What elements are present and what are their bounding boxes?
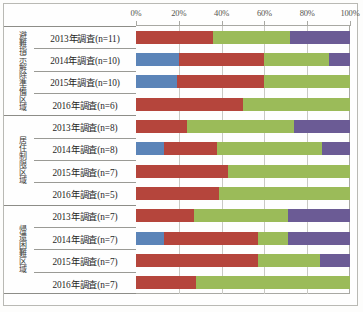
plot-area — [136, 26, 350, 294]
bar-segment-series-1 — [136, 142, 164, 155]
bar-segment-series-3 — [264, 53, 328, 66]
row-label: 2014年調査(n=8) — [34, 139, 136, 161]
x-axis-tick-mark — [179, 21, 180, 26]
bar-segment-series-2 — [136, 276, 196, 289]
group-title-text: 帰還困難区域 — [17, 225, 25, 273]
bar-segment-series-3 — [228, 165, 350, 178]
bar-segment-series-3 — [264, 75, 350, 88]
bar-segment-series-3 — [187, 120, 294, 133]
bar-segment-series-4 — [329, 53, 350, 66]
bar-row — [136, 209, 350, 222]
x-axis-tick-label: 40% — [214, 8, 229, 18]
bar-row — [136, 254, 350, 267]
bar-row — [136, 187, 350, 200]
group-title: 居住制限区域 — [8, 116, 34, 204]
row-label: 2016年調査(n=7) — [34, 273, 136, 295]
row-label: 2016年調査(n=5) — [34, 183, 136, 205]
label-group-1: 避難指示解除準備区域2013年調査(n=11)2014年調査(n=10)2015… — [4, 26, 136, 115]
bar-row — [136, 142, 350, 155]
bar-segment-series-2 — [136, 187, 219, 200]
x-axis-tick-mark — [136, 21, 137, 26]
bar-segment-series-4 — [288, 232, 350, 245]
bar-segment-series-3 — [217, 142, 322, 155]
row-label: 2016年調査(n=6) — [34, 94, 136, 116]
bar-segment-series-2 — [136, 120, 187, 133]
bar-segment-series-4 — [294, 120, 350, 133]
bar-segment-series-2 — [164, 232, 258, 245]
bar-segment-series-3 — [194, 209, 288, 222]
bar-segment-series-3 — [258, 232, 288, 245]
bar-row — [136, 120, 350, 133]
label-group-2: 居住制限区域2013年調査(n=8)2014年調査(n=8)2015年調査(n=… — [4, 115, 136, 204]
bar-row — [136, 165, 350, 178]
bar-segment-series-3 — [196, 276, 350, 289]
x-axis-tick-mark — [307, 21, 308, 26]
bar-segment-series-4 — [290, 31, 350, 44]
group-title: 帰還困難区域 — [8, 206, 34, 293]
row-label: 2015年調査(n=10) — [34, 72, 136, 94]
bar-segment-series-2 — [136, 31, 213, 44]
bar-row — [136, 53, 350, 66]
bar-segment-series-2 — [177, 75, 265, 88]
row-label: 2015年調査(n=7) — [34, 250, 136, 272]
row-label: 2013年調査(n=8) — [34, 116, 136, 138]
bar-row — [136, 276, 350, 289]
x-axis-tick-label: 0% — [131, 8, 142, 18]
bar-segment-series-2 — [164, 142, 218, 155]
x-axis-tick-label: 20% — [171, 8, 186, 18]
group-row-labels: 2013年調査(n=7)2014年調査(n=7)2015年調査(n=7)2016… — [34, 206, 136, 293]
bar-segment-series-1 — [136, 75, 177, 88]
bar-segment-series-4 — [322, 142, 350, 155]
row-label-column: 避難指示解除準備区域2013年調査(n=11)2014年調査(n=10)2015… — [4, 26, 136, 294]
label-group-3: 帰還困難区域2013年調査(n=7)2014年調査(n=7)2015年調査(n=… — [4, 205, 136, 294]
x-axis-tick-label: 100% — [340, 8, 359, 18]
row-label: 2013年調査(n=7) — [34, 206, 136, 228]
row-label: 2014年調査(n=10) — [34, 49, 136, 71]
bar-segment-series-4 — [320, 254, 350, 267]
row-label: 2014年調査(n=7) — [34, 228, 136, 250]
bar-segment-series-2 — [136, 165, 228, 178]
row-label: 2015年調査(n=7) — [34, 161, 136, 183]
x-axis-tick-label: 60% — [257, 8, 272, 18]
bar-row — [136, 232, 350, 245]
group-row-labels: 2013年調査(n=11)2014年調査(n=10)2015年調査(n=10)2… — [34, 27, 136, 115]
bar-segment-series-1 — [136, 53, 179, 66]
bar-segment-series-2 — [179, 53, 265, 66]
group-row-labels: 2013年調査(n=8)2014年調査(n=8)2015年調査(n=7)2016… — [34, 116, 136, 204]
bar-segment-series-2 — [136, 254, 258, 267]
stacked-bar-chart: 0%20%40%60%80%100% 避難指示解除準備区域2013年調査(n=1… — [0, 0, 363, 312]
bar-segment-series-4 — [288, 209, 350, 222]
x-axis-tick-mark — [222, 21, 223, 26]
plot-border-bottom — [136, 293, 350, 294]
x-axis-tick-labels: 0%20%40%60%80%100% — [136, 8, 350, 25]
bar-row — [136, 98, 350, 111]
x-axis-tick-mark — [350, 21, 351, 26]
bar-row — [136, 31, 350, 44]
x-axis-tick-mark — [264, 21, 265, 26]
group-title: 避難指示解除準備区域 — [8, 27, 34, 115]
bar-segment-series-3 — [258, 254, 320, 267]
bar-segment-series-3 — [219, 187, 350, 200]
row-label: 2013年調査(n=11) — [34, 27, 136, 49]
bar-segment-series-3 — [213, 31, 290, 44]
bar-segment-series-2 — [136, 98, 243, 111]
group-title-text: 避難指示解除準備区域 — [17, 31, 25, 111]
bar-segment-series-1 — [136, 232, 164, 245]
bar-segment-series-3 — [243, 98, 350, 111]
bar-segment-series-2 — [136, 209, 194, 222]
group-title-text: 居住制限区域 — [17, 136, 25, 184]
x-axis-tick-label: 80% — [300, 8, 315, 18]
bar-row — [136, 75, 350, 88]
